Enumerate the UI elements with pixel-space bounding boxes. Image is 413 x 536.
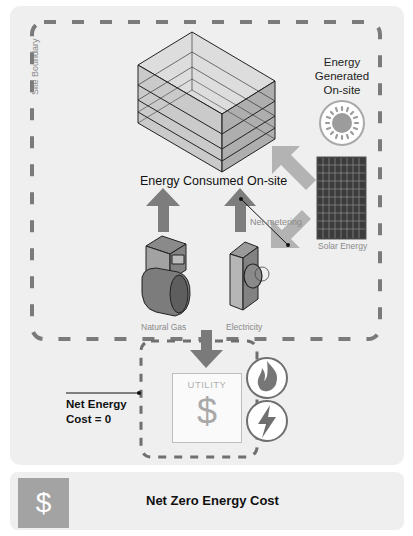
dollar-icon: $ (173, 391, 241, 433)
net-cost-line-1: Net Energy (66, 397, 127, 412)
flame-icon (247, 358, 287, 398)
energy-consumed-label: Energy Consumed On-site (140, 174, 287, 188)
net-energy-cost-label: Net Energy Cost = 0 (66, 397, 127, 427)
electricity-label: Electricity (226, 322, 262, 332)
utility-label: UTILITY (173, 379, 241, 390)
footer-title: Net Zero Energy Cost (146, 493, 279, 508)
electric-meter-icon (230, 242, 269, 310)
solar-energy-label: Solar Energy (318, 241, 367, 251)
energy-generated-label: Energy Generated On-site (302, 55, 382, 97)
natural-gas-label: Natural Gas (141, 322, 186, 332)
arrow-to-utility (190, 330, 223, 368)
footer-dollar-tile: $ (18, 478, 69, 528)
energy-generated-line-1: Energy (302, 55, 382, 69)
energy-generated-line-3: On-site (302, 83, 382, 97)
site-boundary-label: Site Boundary (30, 38, 40, 95)
gas-meter-icon (142, 236, 190, 316)
solar-panel-icon (317, 157, 366, 239)
sun-icon (320, 101, 364, 145)
net-cost-line-2: Cost = 0 (66, 412, 127, 427)
arrow-net-metering (271, 210, 311, 248)
lightning-icon (247, 401, 287, 441)
net-metering-label: Net-metering (250, 217, 302, 227)
energy-generated-line-2: Generated (302, 69, 382, 83)
building-icon (138, 32, 275, 172)
arrow-gas-up (146, 188, 180, 232)
utility-box: UTILITY $ (172, 373, 242, 443)
dollar-icon: $ (18, 487, 69, 519)
